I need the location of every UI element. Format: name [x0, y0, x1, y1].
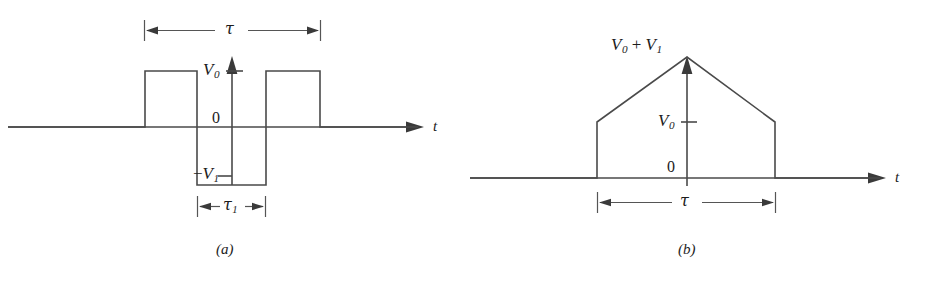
tau1-arrowhead-right — [252, 203, 264, 210]
v1-label-main: V — [203, 164, 213, 183]
panel-a-v0-label: V0 — [203, 61, 220, 80]
v0-label-main: V — [658, 111, 668, 130]
panel-b-zero-label: 0 — [667, 159, 675, 175]
v1-label-main: V — [646, 35, 656, 54]
v0-label-sub: 0 — [214, 68, 220, 80]
panel-b-graphics — [470, 56, 886, 213]
v0-label-sub: 0 — [669, 119, 675, 131]
panel-b-voltage-axis — [682, 56, 693, 186]
tau1-subscript: 1 — [232, 204, 237, 215]
tau-arrowhead-left — [599, 199, 611, 207]
panel-b-t-axis-label: t — [895, 170, 899, 185]
panel-a-t-axis-label: t — [433, 119, 437, 134]
tau1-arrowhead-left — [199, 203, 211, 210]
plus-sign: + — [628, 35, 646, 54]
panel-a-caption: (a) — [216, 242, 234, 257]
tau-arrowhead-right — [307, 27, 319, 35]
v0-label-main: V — [203, 60, 213, 79]
figure-root: τ V0 0 −V1 τ1 t (a) V0 + V1 V0 0 τ t (b) — [0, 0, 926, 281]
panel-a-zero-label: 0 — [212, 110, 220, 126]
figure-vector-canvas — [0, 0, 926, 281]
panel-b-caption: (b) — [678, 242, 696, 257]
panel-b-v0-plus-v1-label: V0 + V1 — [611, 36, 662, 55]
panel-b-tau-label: τ — [680, 193, 689, 209]
panel-b-v0-label: V0 — [658, 112, 675, 131]
tau-symbol: τ — [225, 19, 234, 38]
tau-symbol: τ — [680, 191, 689, 210]
v1-label-sub: 1 — [656, 43, 662, 55]
tau1-symbol: τ — [223, 195, 232, 214]
minus-sign: − — [193, 164, 203, 183]
tau-arrowhead-right — [762, 199, 774, 207]
panel-a-minus-v1-label: −V1 — [193, 165, 219, 184]
panel-a-tau1-label: τ1 — [223, 197, 238, 216]
tau-arrowhead-left — [146, 27, 158, 35]
panel-a-tau-label: τ — [225, 21, 234, 37]
v-axis-arrowhead — [682, 56, 693, 74]
v0-label-main: V — [611, 35, 621, 54]
triangular-pulse-waveform — [470, 57, 880, 178]
panel-a-voltage-axis — [227, 56, 238, 185]
v1-label-sub: 1 — [213, 172, 219, 184]
